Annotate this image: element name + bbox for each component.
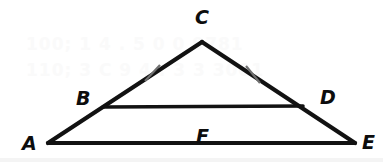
vertex-label-B: B (76, 89, 90, 108)
segment-B-D (103, 106, 303, 107)
vertex-label-E: E (362, 133, 375, 152)
geometry-figure: 100; 1 4 . 5 0 0 9781 110; 3 C 9 4 . 3 3… (0, 0, 383, 162)
vertex-label-A: A (22, 134, 37, 153)
page-bottom-band (0, 158, 383, 162)
vertex-label-D: D (320, 88, 336, 107)
segment-A-C (48, 42, 202, 143)
geometry-diagram-svg (0, 0, 383, 162)
vertex-label-C: C (195, 8, 209, 27)
vertex-label-F: F (196, 127, 209, 146)
